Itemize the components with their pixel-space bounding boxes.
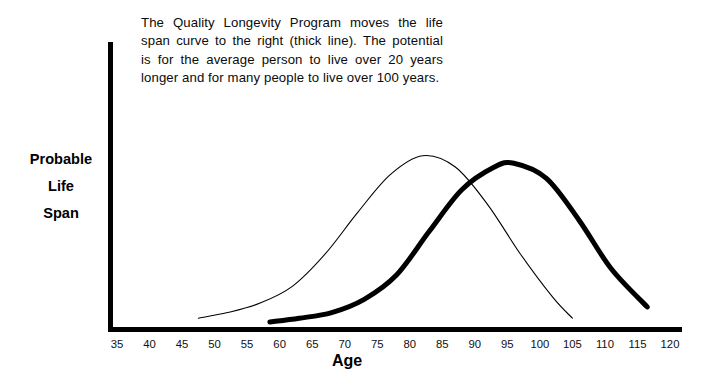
life-span-chart-figure: The Quality Longevity Program moves the … [0,0,714,379]
plot-area [0,0,714,379]
curve-current-life-span [198,155,572,318]
curve-quality-longevity-program [270,162,647,322]
